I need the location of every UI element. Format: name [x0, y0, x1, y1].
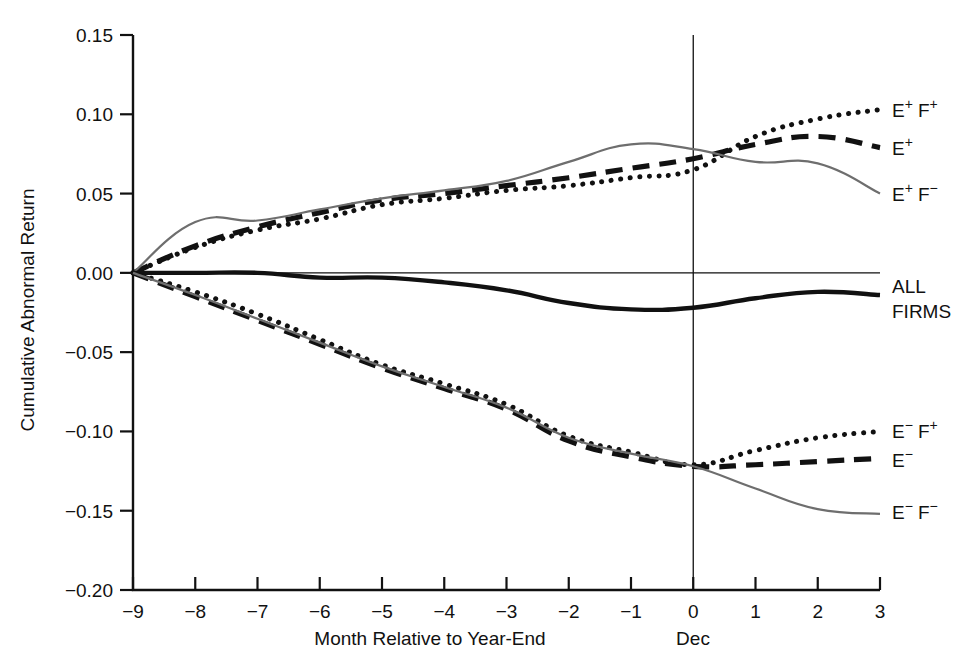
y-tick-label: −0.05 — [65, 342, 113, 363]
x-tick-label: −1 — [620, 601, 642, 622]
series-label-text: FIRMS — [892, 301, 951, 322]
x-tick-label: 2 — [812, 601, 823, 622]
y-tick-label: −0.15 — [65, 501, 113, 522]
y-tick-label: 0.00 — [76, 263, 113, 284]
y-tick-label: −0.20 — [65, 580, 113, 601]
x-tick-label: 0 — [688, 601, 699, 622]
x-tick-label: −5 — [371, 601, 393, 622]
x-tick-label: −7 — [247, 601, 269, 622]
chart-figure: E+F+E+E+F−ALLFIRMSE−F+E−E−F− 0.150.100.0… — [0, 0, 976, 671]
x-tick-label: −6 — [309, 601, 331, 622]
x-tick-label: 3 — [875, 601, 886, 622]
series-label-text: ALL — [892, 276, 926, 297]
y-tick-label: 0.05 — [76, 184, 113, 205]
x-axis-title: Month Relative to Year-End — [314, 628, 545, 649]
x-tick-label: −3 — [496, 601, 518, 622]
x-tick-label: 1 — [750, 601, 761, 622]
x-tick-label: −2 — [558, 601, 580, 622]
chart-background — [0, 0, 976, 671]
x-tick-label: −8 — [184, 601, 206, 622]
x-tick-label: −4 — [433, 601, 455, 622]
y-axis-title: Cumulative Abnormal Return — [17, 189, 38, 432]
y-tick-label: 0.10 — [76, 104, 113, 125]
y-tick-label: −0.10 — [65, 421, 113, 442]
y-tick-label: 0.15 — [76, 25, 113, 46]
x-tick-label: −9 — [122, 601, 144, 622]
dec-marker-label: Dec — [676, 628, 710, 649]
cumulative-abnormal-return-chart: E+F+E+E+F−ALLFIRMSE−F+E−E−F− 0.150.100.0… — [0, 0, 976, 671]
